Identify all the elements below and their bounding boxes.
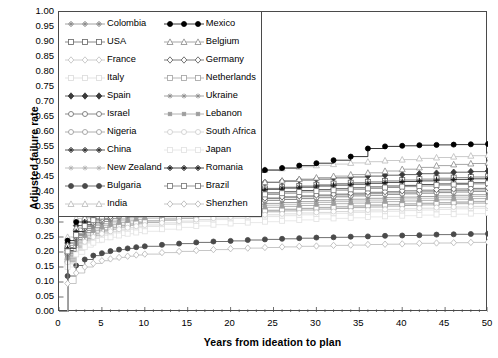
legend-label: New Zealand <box>107 159 162 177</box>
legend-marker-star-icon <box>63 163 107 173</box>
legend-label: Mexico <box>206 15 256 33</box>
legend-key <box>63 15 107 33</box>
legend-row: ItalyNetherlands <box>63 69 256 87</box>
legend-label: Colombia <box>107 15 162 33</box>
legend-label: India <box>107 195 162 213</box>
legend-label: Brazil <box>206 177 256 195</box>
chart-legend: ColombiaMexicoUSABelgiumFranceGermanyIta… <box>58 11 262 217</box>
legend-row: USABelgium <box>63 33 256 51</box>
y-tick-label: 0.85 <box>20 51 54 61</box>
legend-label: Germany <box>206 51 256 69</box>
legend-marker-circle-icon <box>63 109 107 119</box>
y-tick-label: 0.60 <box>20 126 54 136</box>
legend-key <box>63 105 107 123</box>
legend-label: Japan <box>206 141 256 159</box>
legend-key <box>162 105 206 123</box>
legend-marker-square-icon <box>162 145 206 155</box>
x-tick-label: 40 <box>386 318 416 328</box>
y-axis-tick-labels: 0.000.050.100.150.200.250.300.350.400.45… <box>14 0 54 358</box>
legend-marker-square-icon <box>63 73 107 83</box>
legend-key <box>162 159 206 177</box>
x-axis-tick-labels: 05101520253035404550 <box>0 318 498 332</box>
x-axis-title: Years from ideation to plan <box>58 336 487 348</box>
legend-marker-plus-icon <box>63 145 107 155</box>
y-tick-label: 0.50 <box>20 156 54 166</box>
x-tick-label: 15 <box>172 318 202 328</box>
y-tick-label: 0.40 <box>20 186 54 196</box>
legend-key <box>162 123 206 141</box>
legend-label: Shenzhen <box>206 195 256 213</box>
x-tick-label: 50 <box>472 318 498 328</box>
legend-label: Israel <box>107 105 162 123</box>
y-tick-label: 0.25 <box>20 231 54 241</box>
legend-row: FranceGermany <box>63 51 256 69</box>
legend-key <box>63 177 107 195</box>
legend-row: BulgariaBrazil <box>63 177 256 195</box>
legend-row: SpainUkraine <box>63 87 256 105</box>
legend-row: ColombiaMexico <box>63 15 256 33</box>
x-tick-label: 35 <box>343 318 373 328</box>
legend-key <box>162 33 206 51</box>
y-tick-label: 0.70 <box>20 96 54 106</box>
legend-label: Italy <box>107 69 162 87</box>
legend-marker-plus-icon <box>162 163 206 173</box>
legend-marker-smallsquare-icon <box>162 109 206 119</box>
y-tick-label: 1.00 <box>20 6 54 16</box>
legend-marker-diamond-icon <box>162 199 206 209</box>
y-tick-label: 0.15 <box>20 261 54 271</box>
legend-marker-circle-icon <box>162 19 206 29</box>
legend-row: ChinaJapan <box>63 141 256 159</box>
legend-label: Belgium <box>206 33 256 51</box>
legend-marker-square-icon <box>162 181 206 191</box>
legend-label: Nigeria <box>107 123 162 141</box>
x-tick-label: 0 <box>43 318 73 328</box>
x-tick-label: 20 <box>215 318 245 328</box>
legend-label: China <box>107 141 162 159</box>
legend-row: New ZealandRomania <box>63 159 256 177</box>
y-tick-label: 0.05 <box>20 291 54 301</box>
y-tick-label: 0.35 <box>20 201 54 211</box>
legend-label: Spain <box>107 87 162 105</box>
legend-marker-star-icon <box>162 91 206 101</box>
legend-key <box>63 159 107 177</box>
legend-key <box>63 33 107 51</box>
y-tick-label: 0.00 <box>20 306 54 316</box>
legend-key <box>162 141 206 159</box>
y-tick-label: 0.95 <box>20 21 54 31</box>
legend-key <box>63 141 107 159</box>
y-tick-label: 0.30 <box>20 216 54 226</box>
y-tick-label: 0.10 <box>20 276 54 286</box>
legend-marker-circle-icon <box>63 127 107 137</box>
legend-marker-plus-icon <box>63 19 107 29</box>
legend-marker-square-icon <box>162 73 206 83</box>
legend-key <box>63 51 107 69</box>
chart-figure: Adjusted failure rate Years from ideatio… <box>0 0 498 358</box>
legend-marker-square-icon <box>63 37 107 47</box>
legend-label: France <box>107 51 162 69</box>
legend-label: South Africa <box>206 123 256 141</box>
legend-label: Ukraine <box>206 87 256 105</box>
legend-key <box>162 177 206 195</box>
legend-row: IndiaShenzhen <box>63 195 256 213</box>
legend-label: USA <box>107 33 162 51</box>
x-tick-label: 30 <box>300 318 330 328</box>
legend-marker-diamond-icon <box>63 55 107 65</box>
legend-label: Lebanon <box>206 105 256 123</box>
legend-key <box>162 195 206 213</box>
y-tick-label: 0.20 <box>20 246 54 256</box>
legend-key <box>63 195 107 213</box>
legend-key <box>162 87 206 105</box>
legend-key <box>162 69 206 87</box>
legend-key <box>63 123 107 141</box>
legend-marker-circle-icon <box>63 181 107 191</box>
legend-table: ColombiaMexicoUSABelgiumFranceGermanyIta… <box>63 15 256 213</box>
legend-marker-triangle-icon <box>162 37 206 47</box>
x-tick-label: 10 <box>129 318 159 328</box>
legend-key <box>162 51 206 69</box>
legend-key <box>63 87 107 105</box>
legend-label: Romania <box>206 159 256 177</box>
y-tick-label: 0.75 <box>20 81 54 91</box>
legend-label: Bulgaria <box>107 177 162 195</box>
y-tick-label: 0.90 <box>20 36 54 46</box>
y-tick-label: 0.55 <box>20 141 54 151</box>
